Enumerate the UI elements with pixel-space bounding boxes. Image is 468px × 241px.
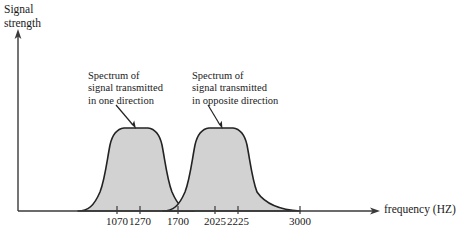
y-axis-title: Signal strength	[4, 3, 41, 30]
tick-label-3000: 3000	[289, 215, 311, 227]
signal-spectrum-figure: Signal strength frequency (HZ) Spectrum …	[0, 0, 468, 241]
annotation-left-label: Spectrum of signal transmitted in one di…	[88, 70, 163, 107]
x-axis-title: frequency (HZ)	[384, 203, 456, 217]
spectrum-curve-right	[163, 128, 300, 211]
tick-label-1700: 1700	[167, 215, 189, 227]
annotation-left-leader	[116, 105, 136, 129]
tick-label-2225: 2225	[227, 215, 249, 227]
tick-label-1270: 1270	[129, 215, 151, 227]
tick-label-2025: 2025	[204, 215, 226, 227]
annotation-right-leader	[208, 105, 223, 129]
annotation-right-label: Spectrum of signal transmitted in opposi…	[192, 70, 278, 107]
spectrum-curve-left	[78, 128, 194, 211]
tick-label-1070: 1070	[106, 215, 128, 227]
